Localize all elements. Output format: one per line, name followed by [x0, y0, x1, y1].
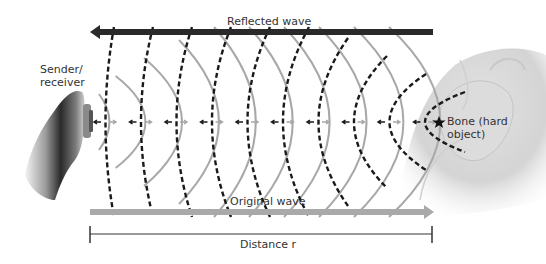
- original-wave-label: Original wave: [230, 195, 306, 208]
- reflected-direction-mark: [307, 120, 314, 124]
- sender-receiver-device: [25, 91, 93, 200]
- original-direction-mark: [358, 120, 365, 124]
- reflected-direction-mark: [236, 120, 243, 124]
- bone-label: Bone (hard object): [447, 115, 508, 141]
- original-direction-mark: [287, 120, 294, 124]
- reflected-wave-label: Reflected wave: [227, 15, 311, 28]
- distance-label: Distance r: [240, 238, 296, 251]
- original-direction-mark: [322, 120, 329, 124]
- sender-label-line1: Sender/: [40, 63, 85, 76]
- sender-receiver-label: Sender/ receiver: [40, 63, 85, 89]
- reflected-direction-mark: [378, 120, 385, 124]
- original-direction-mark: [393, 120, 400, 124]
- bone-label-line1: Bone (hard: [447, 115, 508, 128]
- reflected-direction-mark: [343, 120, 350, 124]
- reflected-direction-mark: [272, 120, 279, 124]
- reflected-direction-mark: [201, 120, 208, 124]
- reflected-direction-mark: [130, 120, 137, 124]
- reflected-direction-mark: [165, 120, 172, 124]
- bone-label-line2: object): [447, 128, 508, 141]
- original-direction-mark: [251, 120, 258, 124]
- sender-label-line2: receiver: [40, 76, 85, 89]
- reflected-direction-mark: [94, 120, 101, 124]
- distance-label-text: Distance r: [240, 238, 296, 251]
